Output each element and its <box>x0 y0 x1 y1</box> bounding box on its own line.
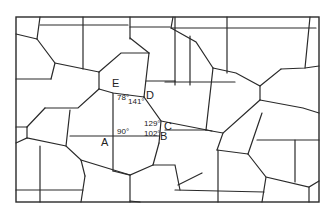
point-label-e: E <box>112 78 119 89</box>
grain-boundaries <box>16 17 319 202</box>
point-label-d: D <box>146 90 154 101</box>
angle-label-c: 129° <box>144 120 161 128</box>
angle-label-b: 102° <box>144 130 161 138</box>
angle-label-d: 141° <box>128 98 145 106</box>
point-label-a: A <box>101 137 108 148</box>
grain-boundary-diagram <box>0 0 335 212</box>
point-label-c: C <box>164 121 172 132</box>
diagram-frame <box>16 17 319 202</box>
point-label-b: B <box>160 131 167 142</box>
angle-label-a: 90° <box>117 128 129 136</box>
